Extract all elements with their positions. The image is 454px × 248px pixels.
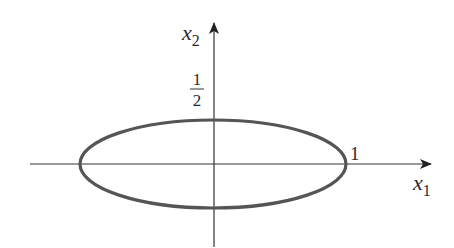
y-intercept-fraction: 1 2 [190,70,204,110]
diagram-canvas: x2 x1 1 1 2 [0,0,454,248]
x2-axis-label: x2 [181,20,200,49]
fraction-denominator: 2 [193,91,202,110]
fraction-numerator: 1 [193,70,202,89]
x-intercept-label: 1 [350,143,360,164]
x1-axis-label: x1 [412,170,431,199]
